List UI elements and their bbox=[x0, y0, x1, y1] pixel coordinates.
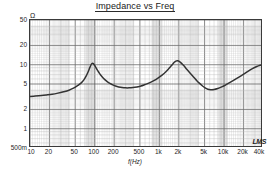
y-tick-label: 20 bbox=[1, 41, 27, 48]
chart-title: Impedance vs Freq bbox=[0, 1, 270, 11]
y-tick-label: 50 bbox=[1, 16, 27, 23]
y-tick-label: 10 bbox=[1, 60, 27, 67]
x-tick-label: 20 bbox=[45, 148, 52, 155]
x-tick-label: 10 bbox=[27, 148, 34, 155]
chart-screenshot: Impedance vs Freq Ω 500m125102050 102050… bbox=[0, 0, 270, 169]
x-tick-label: 500 bbox=[133, 148, 144, 155]
plot-area bbox=[29, 19, 262, 147]
y-tick-label: 1 bbox=[1, 124, 27, 131]
y-tick-label: 2 bbox=[1, 105, 27, 112]
y-axis-tick-labels: 500m125102050 bbox=[0, 19, 27, 147]
x-tick-label: 10k bbox=[218, 148, 228, 155]
x-tick-label: 40k bbox=[254, 148, 264, 155]
x-tick-label: 100 bbox=[88, 148, 99, 155]
x-tick-label: 20k bbox=[237, 148, 247, 155]
lms-watermark-logo: LMS bbox=[252, 138, 266, 145]
y-axis-unit-label: Ω bbox=[30, 12, 35, 19]
y-tick-label: 500m bbox=[1, 144, 27, 151]
x-tick-label: 1k bbox=[155, 148, 162, 155]
plot-grid-and-curve bbox=[30, 20, 262, 147]
x-tick-label: 2k bbox=[174, 148, 181, 155]
x-tick-label: 5k bbox=[200, 148, 207, 155]
y-tick-label: 5 bbox=[1, 80, 27, 87]
x-axis-title: f(Hz) bbox=[0, 158, 270, 165]
x-tick-label: 200 bbox=[108, 148, 119, 155]
x-tick-label: 50 bbox=[71, 148, 78, 155]
chart-title-text: Impedance vs Freq bbox=[95, 1, 176, 12]
x-axis-title-text: f(Hz) bbox=[128, 158, 142, 165]
